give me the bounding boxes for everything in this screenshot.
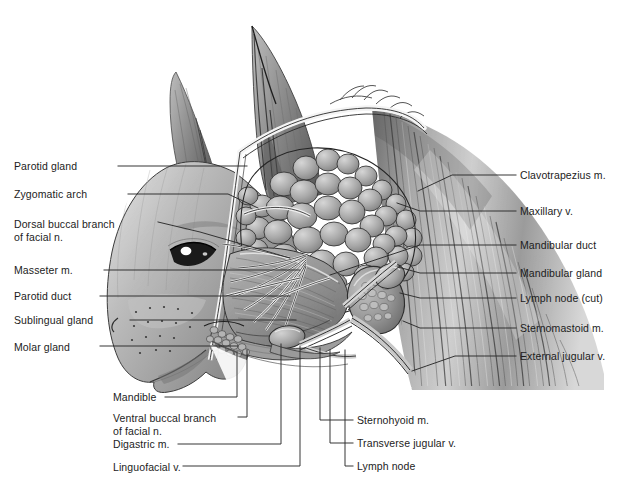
label-clavotrapezius-m: Clavotrapezius m.: [520, 169, 606, 182]
label-linguofacial-v: Linguofacial v.: [113, 461, 181, 474]
label-masseter-m: Masseter m.: [14, 264, 73, 277]
label-mandible: Mandible: [113, 391, 156, 404]
label-lymph-node-cut: Lymph node (cut): [520, 292, 603, 305]
label-dorsal-buccal-branch-line2: of facial n.: [14, 231, 63, 244]
figure-canvas: Parotid glandZygomatic archDorsal buccal…: [0, 0, 624, 478]
label-lymph-node: Lymph node: [357, 460, 415, 473]
label-maxillary-v: Maxillary v.: [520, 205, 573, 218]
label-external-jugular-v: External jugular v.: [520, 350, 605, 363]
label-molar-gland: Molar gland: [14, 341, 70, 354]
label-sublingual-gland: Sublingual gland: [14, 314, 93, 327]
label-mandibular-gland: Mandibular gland: [520, 267, 602, 280]
label-sternohyoid-m: Sternohyoid m.: [357, 414, 429, 427]
label-mandibular-duct: Mandibular duct: [520, 239, 596, 252]
label-ventral-buccal-branch-line2: of facial n.: [113, 425, 162, 438]
label-transverse-jugular-v: Transverse jugular v.: [357, 437, 456, 450]
leader-line-transverse-jugular-v: [330, 350, 353, 443]
label-sternomastoid-m: Sternomastoid m.: [520, 322, 604, 335]
label-digastric-m: Digastric m.: [113, 438, 170, 451]
label-zygomatic-arch: Zygomatic arch: [14, 188, 87, 201]
label-parotid-duct: Parotid duct: [14, 290, 71, 303]
label-parotid-gland: Parotid gland: [14, 160, 77, 173]
label-ventral-buccal-branch: Ventral buccal branch: [113, 412, 216, 425]
label-dorsal-buccal-branch: Dorsal buccal branch: [14, 218, 115, 231]
